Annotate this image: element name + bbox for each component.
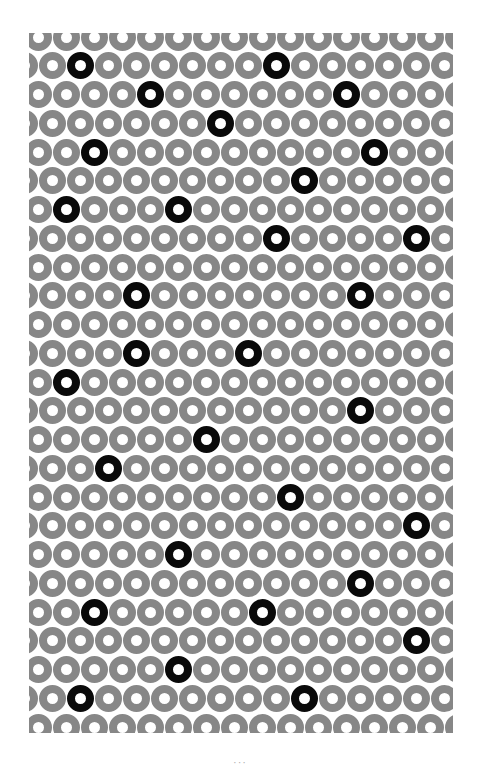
gray-ring <box>389 656 416 683</box>
gray-ring <box>445 656 454 683</box>
gray-ring <box>291 225 318 252</box>
gray-ring <box>389 541 416 568</box>
gray-ring <box>29 282 38 309</box>
gray-ring <box>445 714 454 734</box>
gray-ring <box>193 254 220 281</box>
gray-ring <box>207 340 234 367</box>
gray-ring <box>29 33 52 51</box>
gray-ring <box>165 369 192 396</box>
gray-ring <box>207 397 234 424</box>
gray-ring <box>305 33 332 51</box>
gray-ring <box>431 282 454 309</box>
gray-ring <box>361 714 388 734</box>
black-ring <box>81 599 108 626</box>
gray-ring <box>361 541 388 568</box>
gray-ring <box>277 599 304 626</box>
gray-ring <box>221 426 248 453</box>
gray-ring <box>109 369 136 396</box>
gray-ring <box>53 311 80 338</box>
gray-ring <box>109 254 136 281</box>
gray-ring <box>249 484 276 511</box>
gray-ring <box>361 656 388 683</box>
gray-ring <box>123 397 150 424</box>
gray-ring <box>431 167 454 194</box>
gray-ring <box>29 52 38 79</box>
gray-ring <box>193 196 220 223</box>
gray-ring <box>249 311 276 338</box>
gray-ring <box>263 455 290 482</box>
gray-ring <box>151 627 178 654</box>
gray-ring <box>29 541 52 568</box>
gray-ring <box>207 570 234 597</box>
gray-ring <box>277 311 304 338</box>
gray-ring <box>67 397 94 424</box>
gray-ring <box>29 311 52 338</box>
gray-ring <box>333 196 360 223</box>
gray-ring <box>403 282 430 309</box>
gray-ring <box>29 714 52 734</box>
gray-ring <box>123 627 150 654</box>
gray-ring <box>291 512 318 539</box>
gray-ring <box>277 369 304 396</box>
gray-ring <box>333 369 360 396</box>
black-ring <box>53 369 80 396</box>
gray-ring <box>81 484 108 511</box>
gray-ring <box>137 426 164 453</box>
gray-ring <box>319 282 346 309</box>
gray-ring <box>249 541 276 568</box>
black-ring <box>193 426 220 453</box>
gray-ring <box>445 33 454 51</box>
gray-ring <box>431 512 454 539</box>
gray-ring <box>29 167 38 194</box>
gray-ring <box>39 455 66 482</box>
gray-ring <box>67 570 94 597</box>
gray-ring <box>207 52 234 79</box>
gray-ring <box>417 311 444 338</box>
gray-ring <box>179 110 206 137</box>
gray-ring <box>193 656 220 683</box>
ring-pattern-figure <box>29 33 453 733</box>
gray-ring <box>29 196 52 223</box>
gray-ring <box>123 455 150 482</box>
gray-ring <box>221 656 248 683</box>
gray-ring <box>361 311 388 338</box>
gray-ring <box>39 282 66 309</box>
gray-ring <box>165 139 192 166</box>
gray-ring <box>95 110 122 137</box>
gray-ring <box>151 110 178 137</box>
black-ring <box>263 225 290 252</box>
gray-ring <box>81 196 108 223</box>
gray-ring <box>123 225 150 252</box>
gray-ring <box>53 81 80 108</box>
gray-ring <box>165 311 192 338</box>
gray-ring <box>347 110 374 137</box>
gray-ring <box>445 426 454 453</box>
gray-ring <box>431 685 454 712</box>
gray-ring <box>221 541 248 568</box>
gray-ring <box>403 570 430 597</box>
gray-ring <box>235 685 262 712</box>
gray-ring <box>347 225 374 252</box>
gray-ring <box>291 282 318 309</box>
gray-ring <box>403 167 430 194</box>
gray-ring <box>53 714 80 734</box>
gray-ring <box>263 627 290 654</box>
gray-ring <box>417 139 444 166</box>
gray-ring <box>207 512 234 539</box>
black-ring <box>291 167 318 194</box>
gray-ring <box>95 282 122 309</box>
black-ring <box>165 656 192 683</box>
gray-ring <box>109 33 136 51</box>
gray-ring <box>277 541 304 568</box>
gray-ring <box>151 685 178 712</box>
gray-ring <box>333 656 360 683</box>
gray-ring <box>263 282 290 309</box>
gray-ring <box>137 369 164 396</box>
gray-ring <box>123 512 150 539</box>
gray-ring <box>179 397 206 424</box>
gray-ring <box>319 167 346 194</box>
black-ring <box>95 455 122 482</box>
gray-ring <box>193 714 220 734</box>
gray-ring <box>305 81 332 108</box>
gray-ring <box>95 570 122 597</box>
